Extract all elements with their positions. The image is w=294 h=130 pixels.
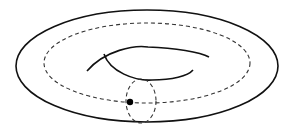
torus-svg [0, 0, 294, 130]
base-point [127, 99, 133, 105]
outer-boundary [16, 10, 278, 122]
longitude-loop [44, 23, 250, 103]
inner-hole-lower-arc [104, 54, 193, 80]
torus-diagram [0, 0, 294, 130]
